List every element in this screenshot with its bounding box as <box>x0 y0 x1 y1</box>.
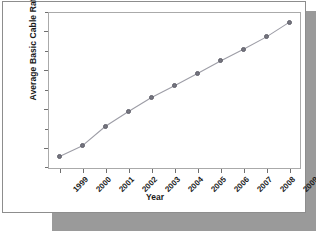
x-axis-tick-mark <box>152 169 153 173</box>
x-axis-tick-mark <box>267 169 268 173</box>
data-point-marker <box>241 47 246 52</box>
panel-shadow-bottom <box>52 213 316 231</box>
y-axis-tick-mark <box>44 109 48 110</box>
x-axis-tick-mark <box>290 169 291 173</box>
x-axis-tick-mark <box>60 169 61 173</box>
x-axis-tick-mark <box>175 169 176 173</box>
x-axis-title: Year <box>3 192 307 202</box>
x-axis-tick-mark <box>198 169 199 173</box>
y-axis-tick-mark <box>44 31 48 32</box>
data-point-marker <box>126 109 131 114</box>
y-axis-tick-mark <box>44 70 48 71</box>
data-point-marker <box>149 95 154 100</box>
line-chart: Average Basic Cable Rate $45$40$35$30199… <box>3 2 307 214</box>
y-axis-minor-tick-mark <box>45 51 48 52</box>
y-axis-minor-tick-mark <box>45 90 48 91</box>
x-axis-tick-mark <box>129 169 130 173</box>
y-axis-minor-tick-mark <box>45 167 48 168</box>
y-axis-minor-tick-mark <box>45 12 48 13</box>
y-axis-title: Average Basic Cable Rate <box>28 0 38 127</box>
y-axis-minor-tick-mark <box>45 129 48 130</box>
panel-shadow-right <box>306 11 316 231</box>
screenshot-root: Average Basic Cable Rate $45$40$35$30199… <box>0 0 316 231</box>
x-axis-tick-mark <box>221 169 222 173</box>
y-axis-tick-mark <box>44 148 48 149</box>
data-point-marker <box>195 71 200 76</box>
figure-panel: Average Basic Cable Rate $45$40$35$30199… <box>2 1 306 213</box>
x-axis-tick-mark <box>83 169 84 173</box>
x-axis-tick-mark <box>106 169 107 173</box>
data-point-marker <box>103 124 108 129</box>
x-axis-tick-mark <box>244 169 245 173</box>
data-point-marker <box>287 20 292 25</box>
